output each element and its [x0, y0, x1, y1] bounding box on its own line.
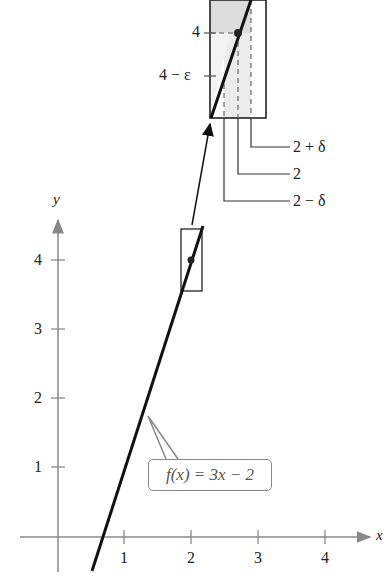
x-axis-label: x [376, 528, 383, 543]
zoom-x-label-2-plus-delta: 2 + δ [293, 139, 326, 155]
function-callout: f(x) = 3x − 2 [148, 459, 272, 491]
function-line [92, 226, 203, 571]
zoom-x-label-2-minus-delta: 2 − δ [293, 193, 326, 209]
zoom-y-label-4: 4 [192, 24, 200, 40]
zoom-connector-arrow [192, 124, 210, 225]
point-2-4 [188, 257, 195, 264]
y-axis-label: y [53, 192, 60, 207]
plot-canvas [0, 0, 388, 584]
x-tick-2: 2 [187, 550, 195, 566]
x-tick-3: 3 [254, 550, 262, 566]
zoom-box [204, 0, 290, 201]
y-tick-2: 2 [34, 390, 42, 406]
axes [20, 220, 370, 572]
y-tick-3: 3 [34, 321, 42, 337]
x-tick-4: 4 [321, 550, 329, 566]
x-tick-1: 1 [120, 550, 128, 566]
zoom-y-label-4-minus-epsilon: 4 − ε [159, 67, 191, 83]
epsilon-delta-figure: 4 4 − ε 2 + δ 2 2 − δ y x 4 3 2 1 1 2 3 … [0, 0, 388, 584]
callout-pointer [148, 416, 178, 459]
y-tick-4: 4 [34, 252, 42, 268]
y-tick-1: 1 [34, 459, 42, 475]
zoom-x-label-2: 2 [293, 166, 301, 182]
